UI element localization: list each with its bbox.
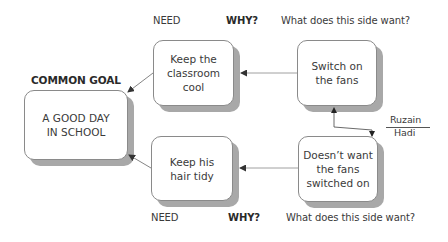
top-need-line1: Keep the [158,52,229,66]
top-why-label: WHY? [226,15,258,26]
common-goal-content: A GOOD DAY IN SCHOOL [24,90,128,160]
bottom-need-content: Keep his hair tidy [151,136,233,201]
top-want-label: What does this side want? [281,15,410,26]
top-need-line2: classroom cool [158,66,229,94]
bottom-need-box: Keep his hair tidy [151,136,233,201]
bottom-why-label: WHY? [228,212,260,223]
top-want-content: Switch on the fans [297,40,377,106]
common-goal-box: A GOOD DAY IN SCHOOL [24,90,128,160]
common-goal-heading: COMMON GOAL [31,74,121,86]
common-goal-line2: IN SCHOOL [42,125,109,139]
bottom-want-box: Doesn’t want the fans switched on [298,136,378,202]
bottom-need-label: NEED [151,212,178,223]
top-need-content: Keep the classroom cool [153,40,234,106]
bottom-want-line2: the fans [303,162,373,176]
bottom-need-line1: Keep his [170,155,214,169]
top-need-label: NEED [153,15,180,26]
common-goal-line1: A GOOD DAY [42,111,109,125]
bottom-want-label: What does this side want? [286,212,415,223]
top-want-line1: Switch on [311,59,362,73]
arrow-top-need-to-goal [128,73,153,92]
top-want-box: Switch on the fans [297,40,377,106]
bottom-want-line3: switched on [303,176,373,190]
bottom-want-content: Doesn’t want the fans switched on [298,136,378,202]
bottom-want-line1: Doesn’t want [303,148,373,162]
conflict-party-bottom: Hadi [394,127,415,138]
conflict-party-top: Ruzain [390,114,421,125]
top-need-box: Keep the classroom cool [153,40,234,106]
conflict-arrow [334,121,372,136]
bottom-need-line2: hair tidy [170,169,214,183]
top-want-line2: the fans [311,73,362,87]
